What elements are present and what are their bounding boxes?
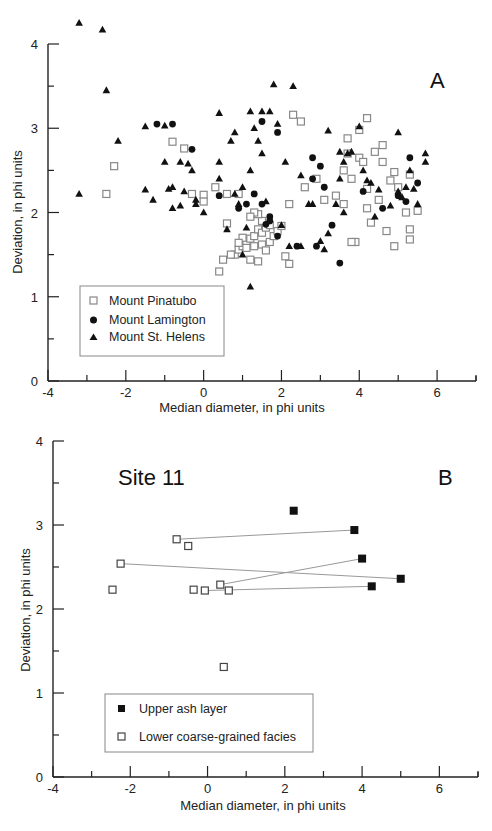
filled-circle-point (243, 201, 250, 208)
filled-triangle-point (336, 148, 344, 155)
filled-triangle-point (239, 183, 247, 190)
filled-triangle-point (215, 109, 223, 116)
filled-triangle-point (332, 200, 340, 207)
open-square-point (227, 251, 234, 258)
filled-triangle-point (317, 237, 325, 244)
filled-triangle-point (297, 171, 305, 178)
filled-triangle-point (406, 166, 414, 173)
filled-circle-point (262, 221, 269, 228)
filled-triangle-point (371, 213, 379, 220)
chart-b-y-axis-label: Deviation, in phi units (18, 548, 33, 672)
open-square-point (364, 205, 371, 212)
open-square-point (391, 169, 398, 176)
filled-square-point (358, 555, 366, 563)
y-tick-label: 2 (36, 602, 43, 617)
filled-triangle-point (336, 175, 344, 182)
legend-label-st-helens: Mount St. Helens (109, 330, 205, 344)
open-square-point (344, 135, 351, 142)
filled-circle-point (329, 222, 336, 229)
filled-triangle-point (200, 209, 208, 216)
filled-circle-point (317, 163, 324, 170)
filled-triangle-point (215, 158, 223, 165)
open-square-marker-icon (118, 733, 125, 740)
filled-triangle-point (247, 283, 255, 290)
panel-label-b: B (438, 465, 453, 490)
filled-triangle-point (414, 200, 422, 207)
filled-triangle-point (141, 123, 149, 130)
legend-label-lower-facies: Lower coarse-grained facies (139, 730, 296, 744)
filled-triangle-point (188, 166, 196, 173)
legend-label-lamington: Mount Lamington (109, 313, 206, 327)
filled-triangle-point (176, 158, 184, 165)
open-square-point (364, 115, 371, 122)
filled-circle-point (259, 118, 266, 125)
filled-triangle-point (282, 158, 290, 165)
filled-triangle-point (184, 160, 192, 167)
link-line (121, 564, 401, 579)
filled-triangle-point (340, 158, 348, 165)
open-square-point (223, 190, 230, 197)
chart-b-legend: Upper ash layer Lower coarse-grained fac… (105, 694, 313, 752)
chart-b-title: Site 11 (118, 465, 185, 490)
filled-circle-point (379, 205, 386, 212)
chart-b-points (109, 507, 405, 671)
filled-triangle-point (387, 202, 395, 209)
legend-label-upper-ash: Upper ash layer (139, 702, 227, 716)
open-square-point (212, 184, 219, 191)
open-square-point (286, 201, 293, 208)
open-square-point (200, 191, 207, 198)
legend-label-pinatubo: Mount Pinatubo (109, 294, 197, 308)
open-square-point (297, 118, 304, 125)
open-square-point (321, 196, 328, 203)
y-tick-label: 1 (31, 290, 38, 305)
filled-triangle-point (247, 107, 255, 114)
link-line (220, 559, 362, 585)
open-square-point (348, 238, 355, 245)
filled-triangle-point (231, 128, 239, 135)
open-square-point (348, 175, 355, 182)
figure: -4-2024601234 A Median diameter, in phi … (0, 0, 492, 831)
filled-triangle-point (320, 246, 328, 253)
chart-b: -4-2024601234 Site 11 B Median diameter,… (18, 434, 478, 813)
filled-circle-point (216, 192, 223, 199)
filled-triangle-point (75, 190, 83, 197)
open-square-point (414, 207, 421, 214)
open-square-point (103, 190, 110, 197)
open-square-point (402, 209, 409, 216)
chart-a-points (75, 19, 429, 290)
filled-square-point (290, 507, 298, 515)
x-tick-label: 4 (358, 781, 365, 796)
filled-square-marker-icon (118, 705, 125, 712)
filled-triangle-point (149, 196, 157, 203)
filled-triangle-point (402, 183, 410, 190)
x-tick-label: 2 (278, 385, 285, 400)
open-square-point (220, 663, 227, 670)
open-square-point (225, 587, 232, 594)
x-tick-label: -2 (124, 781, 136, 796)
open-square-point (243, 244, 250, 251)
filled-circle-point (309, 154, 316, 161)
filled-triangle-point (258, 107, 266, 114)
open-square-point (391, 243, 398, 250)
filled-circle-marker-icon (90, 317, 97, 324)
open-square-point (247, 213, 254, 220)
chart-a-y-axis-label: Deviation, in phi units (10, 150, 25, 274)
open-square-point (379, 158, 386, 165)
filled-triangle-point (247, 166, 255, 173)
open-square-point (375, 196, 382, 203)
open-square-point (251, 243, 258, 250)
filled-square-point (350, 526, 358, 534)
y-tick-label: 2 (31, 206, 38, 221)
open-square-point (111, 163, 118, 170)
open-square-point (286, 260, 293, 267)
open-square-point (383, 228, 390, 235)
x-tick-label: -2 (120, 385, 132, 400)
open-square-point (117, 560, 124, 567)
open-square-point (262, 247, 269, 254)
y-tick-label: 4 (36, 434, 43, 449)
filled-triangle-point (270, 80, 278, 87)
chart-a-x-axis-label: Median diameter, in phi units (159, 400, 325, 415)
open-square-point (173, 536, 180, 543)
open-square-point (332, 192, 339, 199)
chart-b-x-axis-label: Median diameter, in phi units (180, 798, 346, 813)
